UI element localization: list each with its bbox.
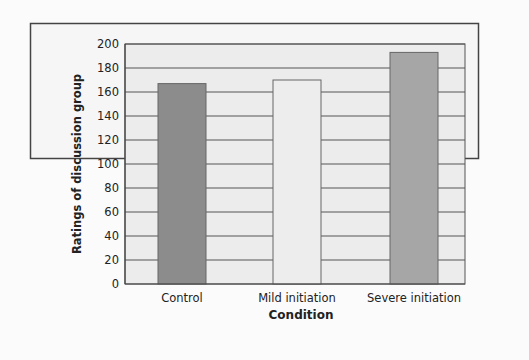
bar-severe-initiation: [390, 52, 438, 284]
y-tick-label: 180: [97, 61, 119, 75]
y-tick-label: 100: [97, 157, 119, 171]
y-axis-label: Ratings of discussion group: [70, 74, 84, 254]
x-tick-label: Severe initiation: [367, 291, 461, 305]
y-tick-label: 120: [97, 133, 119, 147]
y-tick-label: 0: [112, 277, 119, 291]
y-tick-label: 40: [104, 229, 119, 243]
x-axis-label: Condition: [269, 308, 334, 322]
bar-mild-initiation: [273, 80, 321, 284]
y-tick-label: 80: [104, 181, 119, 195]
y-tick-label: 160: [97, 85, 119, 99]
y-tick-label: 140: [97, 109, 119, 123]
bar-control: [158, 84, 206, 284]
x-tick-label: Control: [161, 291, 203, 305]
y-tick-label: 20: [104, 253, 119, 267]
bar-chart: 020406080100120140160180200 ControlMild …: [0, 0, 529, 360]
y-tick-label: 60: [104, 205, 119, 219]
y-tick-label: 200: [97, 37, 119, 51]
x-tick-label: Mild initiation: [258, 291, 336, 305]
